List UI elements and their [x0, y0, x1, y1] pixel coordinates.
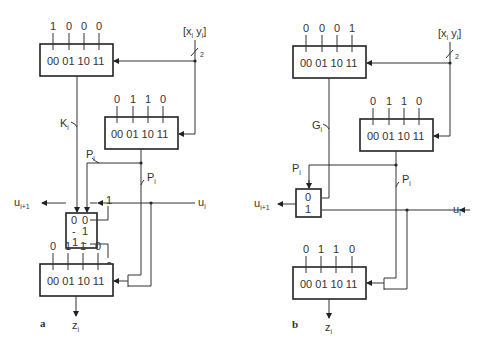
panel-label-b: b [292, 318, 298, 330]
g-signal-label: Gi [312, 119, 323, 133]
svg-text:1: 1 [318, 243, 324, 255]
svg-text:0: 0 [50, 240, 56, 252]
lut-address-labels: 00 01 10 11 [300, 278, 357, 290]
svg-text:1: 1 [305, 203, 311, 215]
svg-text:1: 1 [386, 95, 392, 107]
p-signal-label: Pi [402, 173, 411, 187]
lut-data-bit: 0 [114, 93, 120, 105]
carry-in-label: ui [198, 196, 206, 210]
p-signal-label-2: Pi [147, 171, 156, 185]
panel-a: 1 0 0 0 00 01 10 11 [xi yi] 2 0 1 1 0 00… [14, 20, 206, 333]
svg-text:1: 1 [65, 240, 71, 252]
k-signal-label: Ki [60, 117, 69, 131]
z-output-label: zi [325, 321, 333, 335]
carry-out-label: ui+1 [254, 197, 270, 211]
lut-data-bit: 1 [130, 93, 136, 105]
svg-text:1: 1 [401, 95, 407, 107]
svg-text:0: 0 [303, 243, 309, 255]
mid-lut-b: 0 1 1 0 00 01 10 11 [360, 95, 433, 151]
input-bus-label: [xi yi] [438, 27, 461, 41]
svg-text:0: 0 [305, 191, 311, 203]
lut-data-bit: 0 [66, 20, 72, 32]
top-lut-a: 1 0 0 0 00 01 10 11 [40, 20, 113, 76]
lut-address-labels: 00 01 10 11 [47, 55, 104, 67]
top-lut-b: 0 0 0 1 00 01 10 11 [293, 22, 366, 78]
lut-address-labels: 00 01 10 11 [367, 130, 424, 142]
carry-logic-diagram: 1 0 0 0 00 01 10 11 [xi yi] 2 0 1 1 0 00… [0, 0, 481, 349]
mid-lut-a: 0 1 1 0 00 01 10 11 [105, 93, 178, 149]
svg-text:0: 0 [370, 95, 376, 107]
lut-data-bit: 1 [145, 93, 151, 105]
sel-signal-label: Pi [292, 162, 301, 176]
bus-width: 2 [200, 51, 204, 58]
lut-data-bit: 1 [50, 20, 56, 32]
lut-address-labels: 00 01 10 11 [111, 128, 168, 140]
carry-out-label: ui+1 [14, 196, 30, 210]
svg-text:0: 0 [334, 22, 340, 34]
svg-text:1: 1 [349, 22, 355, 34]
bottom-lut-b: 0 1 1 0 00 01 10 11 [293, 243, 366, 299]
svg-text:0: 0 [95, 240, 101, 252]
lut-address-labels: 00 01 10 11 [300, 57, 357, 69]
svg-text:0: 0 [303, 22, 309, 34]
carry-in-label: ui [453, 203, 461, 217]
svg-text:1: 1 [333, 243, 339, 255]
z-output-label: zi [72, 319, 80, 333]
input-bus-label: [xi yi] [183, 25, 206, 39]
lut-address-labels: 00 01 10 11 [47, 275, 104, 287]
panel-b: 0 0 0 1 00 01 10 11 [xi yi] 2 0 1 1 0 00… [254, 22, 470, 335]
svg-text:1: 1 [80, 240, 86, 252]
svg-text:0: 0 [349, 243, 355, 255]
mux-const-1: 1 [106, 194, 112, 206]
lut-data-bit: 0 [81, 20, 87, 32]
carry-mux-b: 0 1 [296, 189, 321, 217]
panel-label-a: a [40, 317, 46, 329]
lut-data-bit: 0 [160, 93, 166, 105]
svg-text:2: 2 [455, 53, 459, 60]
svg-text:0: 0 [416, 95, 422, 107]
lut-data-bit: 0 [96, 20, 102, 32]
svg-text:1: 1 [72, 236, 78, 248]
svg-text:0: 0 [319, 22, 325, 34]
